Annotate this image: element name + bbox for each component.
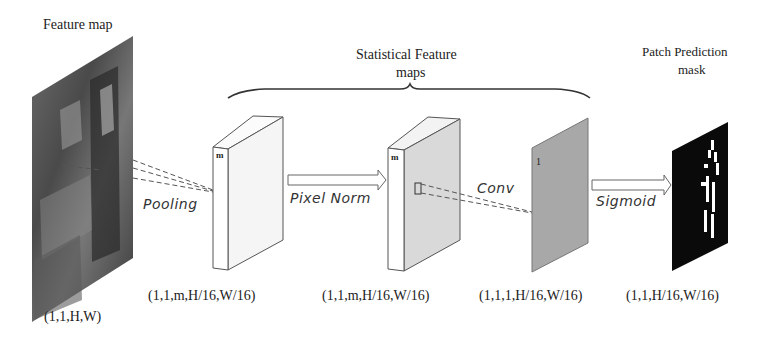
input-shape-label: (1,1,H,W) xyxy=(44,309,101,325)
patch-prediction-mask xyxy=(672,122,728,271)
pooling-op-label: Pooling xyxy=(143,196,198,212)
patch-title-line1: Patch Prediction xyxy=(642,44,728,60)
pooled-feature-box xyxy=(213,116,283,270)
feature-map-title: Feature map xyxy=(43,17,113,33)
conv-output-plane xyxy=(532,118,588,272)
statistical-title-line2: maps xyxy=(396,65,426,81)
input-feature-map xyxy=(32,36,133,322)
conv-op-label: Conv xyxy=(477,180,515,196)
sigmoid-arrow xyxy=(592,175,671,195)
mask-shape-label: (1,1,H/16,W/16) xyxy=(626,288,719,304)
pixel-norm-op-label: Pixel Norm xyxy=(290,190,371,206)
statistical-brace xyxy=(228,84,590,98)
pooled-channel-label: m xyxy=(216,150,224,160)
normed-channel-label: m xyxy=(391,152,399,162)
sigmoid-op-label: Sigmoid xyxy=(596,193,656,209)
pixel-norm-arrow xyxy=(288,170,386,190)
conv-channel-label: 1 xyxy=(536,156,541,167)
conv-shape-label: (1,1,1,H/16,W/16) xyxy=(479,288,582,304)
statistical-title-line1: Statistical Feature xyxy=(356,47,457,63)
pooled-shape-label: (1,1,m,H/16,W/16) xyxy=(148,288,255,304)
patch-title-line2: mask xyxy=(678,62,705,78)
normed-shape-label: (1,1,m,H/16,W/16) xyxy=(322,288,429,304)
